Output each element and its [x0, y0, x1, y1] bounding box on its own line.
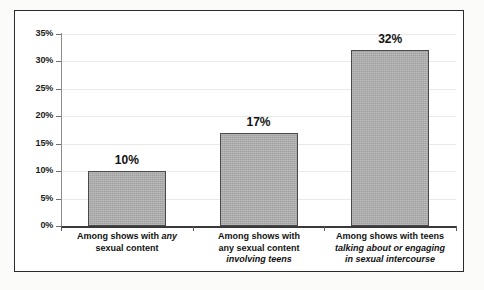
label-segment: Among shows with: [77, 231, 162, 241]
y-axis-tick: [56, 89, 61, 90]
x-axis-category-label-line: Among shows with any: [61, 231, 193, 243]
y-axis-tick: [56, 171, 61, 172]
y-axis-tick-label: 35%: [18, 28, 53, 38]
y-axis-line: [61, 33, 62, 227]
y-axis-tick: [56, 34, 61, 35]
x-axis-category-label-line: in sexual intercourse: [324, 254, 456, 266]
y-axis-tick-label: 5%: [18, 193, 53, 203]
y-axis-tick-label: 20%: [18, 110, 53, 120]
label-segment: any sexual content: [218, 243, 299, 253]
x-axis-category-label: Among shows with teenstalking about or e…: [324, 231, 456, 266]
x-axis-category-label-line: talking about or engaging: [324, 243, 456, 255]
x-axis-category-label-line: involving teens: [193, 254, 325, 266]
y-axis-tick-label: 10%: [18, 165, 53, 175]
y-axis-tick-label: 25%: [18, 83, 53, 93]
y-axis-tick-label: 0%: [18, 220, 53, 230]
label-segment: any: [161, 231, 177, 241]
y-axis-tick: [56, 116, 61, 117]
x-axis-category-label-line: sexual content: [61, 243, 193, 255]
y-axis-tick: [56, 61, 61, 62]
bar-value-label: 32%: [350, 32, 430, 46]
label-segment: in sexual intercourse: [345, 254, 435, 264]
x-axis-category-label: Among shows with anysexual content: [61, 231, 193, 254]
y-axis-tick: [56, 144, 61, 145]
bar-value-label: 17%: [219, 115, 299, 129]
bar-value-label: 10%: [87, 153, 167, 167]
bar-texture: [221, 134, 297, 225]
x-axis-category-label-line: Among shows with teens: [324, 231, 456, 243]
label-segment: involving teens: [226, 254, 292, 264]
bar-chart: 35%30%25%20%15%10%5%0% 10%Among shows wi…: [15, 11, 463, 271]
x-axis-tick: [456, 226, 457, 231]
x-axis-category-label-line: Among shows with: [193, 231, 325, 243]
label-segment: Among shows with teens: [336, 231, 444, 241]
label-segment: talking about or engaging: [335, 243, 445, 253]
figure-frame: 35%30%25%20%15%10%5%0% 10%Among shows wi…: [14, 10, 464, 272]
bar: [351, 50, 429, 226]
y-axis-tick: [56, 199, 61, 200]
y-axis-tick-label: 15%: [18, 138, 53, 148]
x-axis-category-label: Among shows withany sexual contentinvolv…: [193, 231, 325, 266]
bar: [220, 133, 298, 226]
bar-texture: [352, 51, 428, 225]
x-axis-category-label-line: any sexual content: [193, 243, 325, 255]
x-axis-line: [61, 226, 457, 228]
label-segment: sexual content: [95, 243, 158, 253]
y-axis-tick-label: 30%: [18, 55, 53, 65]
label-segment: Among shows with: [218, 231, 300, 241]
bar-texture: [89, 172, 165, 225]
scanned-page: 35%30%25%20%15%10%5%0% 10%Among shows wi…: [0, 0, 484, 290]
bar: [88, 171, 166, 226]
